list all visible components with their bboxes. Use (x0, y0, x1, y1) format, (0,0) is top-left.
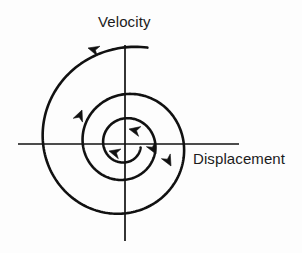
diagram-canvas: Velocity Displacement (0, 0, 302, 253)
arrow-mid-left-icon (73, 110, 82, 122)
horizontal-axis-label: Displacement (193, 150, 285, 167)
arrow-outer-bottom-right-icon (161, 154, 171, 166)
arrow-inner-center-icon (129, 127, 141, 137)
spiral-group (43, 46, 184, 214)
axes-group (18, 45, 239, 241)
phase-space-figure (0, 0, 302, 253)
vertical-axis-label: Velocity (98, 13, 151, 30)
spiral-curve (43, 47, 184, 214)
